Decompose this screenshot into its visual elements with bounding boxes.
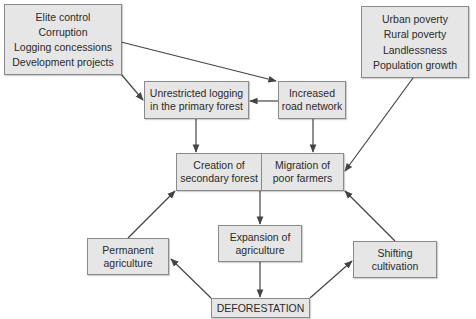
node-migration: Migration of poor farmers	[262, 154, 343, 190]
node-causes-right: Urban poverty Rural poverty Landlessness…	[361, 6, 469, 78]
node-label: in the primary forest	[150, 100, 243, 113]
edge-causes-left-to-logging	[121, 74, 143, 100]
node-label: Migration of	[275, 159, 330, 172]
node-label: road network	[282, 100, 343, 113]
node-label: Increased	[289, 87, 335, 100]
node-label: agriculture	[235, 244, 284, 257]
node-label: Creation of	[193, 159, 244, 172]
node-deforestation: DEFORESTATION	[211, 298, 310, 318]
cause-label: Urban poverty	[382, 13, 448, 25]
node-label: DEFORESTATION	[217, 302, 305, 315]
cause-label: Elite control	[36, 11, 91, 23]
node-expansion-agriculture: Expansion of agriculture	[218, 225, 302, 262]
cause-label: Population growth	[373, 59, 457, 71]
node-label: poor farmers	[273, 172, 333, 185]
edge-causes-left-to-road	[121, 42, 276, 81]
edge-causes-right-to-migration	[345, 78, 413, 171]
cause-label: Landlessness	[383, 44, 447, 56]
cause-label: Rural poverty	[384, 28, 446, 40]
node-permanent-agriculture: Permanent agriculture	[87, 238, 169, 275]
edge-deforestation-to-shifting	[310, 261, 352, 298]
node-label: agriculture	[103, 257, 152, 270]
edge-shifting-to-migration	[345, 191, 395, 241]
node-road-network: Increased road network	[278, 81, 346, 119]
cause-label: Logging concessions	[14, 41, 112, 53]
node-secondary-migration-group: Creation of secondary forest Migration o…	[176, 153, 344, 191]
node-label: secondary forest	[180, 172, 258, 185]
node-label: cultivation	[372, 260, 419, 273]
node-label: Expansion of	[230, 231, 291, 244]
node-causes-left: Elite control Corruption Logging concess…	[4, 4, 122, 75]
cause-label: Corruption	[38, 26, 87, 38]
node-label: Permanent	[102, 244, 153, 257]
node-shifting-cultivation: Shifting cultivation	[353, 241, 437, 278]
cause-label: Development projects	[12, 56, 114, 68]
edge-permanent-to-secondary	[128, 191, 175, 238]
deforestation-diagram: Elite control Corruption Logging concess…	[0, 0, 476, 319]
edge-deforestation-to-permanent	[171, 259, 211, 298]
node-unrestricted-logging: Unrestricted logging in the primary fore…	[144, 81, 249, 119]
node-label: Unrestricted logging	[150, 87, 243, 100]
node-secondary-forest: Creation of secondary forest	[177, 154, 262, 190]
node-label: Shifting	[377, 247, 412, 260]
